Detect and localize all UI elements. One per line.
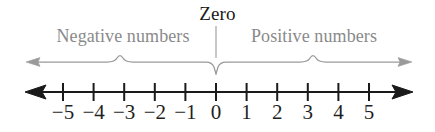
negative-numbers-label: Negative numbers	[30, 27, 216, 45]
zero-label: Zero	[0, 4, 435, 23]
positive-numbers-label: Positive numbers	[216, 27, 412, 45]
tick-label: 5	[349, 102, 389, 123]
number-line-figure: Zero Negative numbers Positive numbers −…	[0, 0, 435, 132]
